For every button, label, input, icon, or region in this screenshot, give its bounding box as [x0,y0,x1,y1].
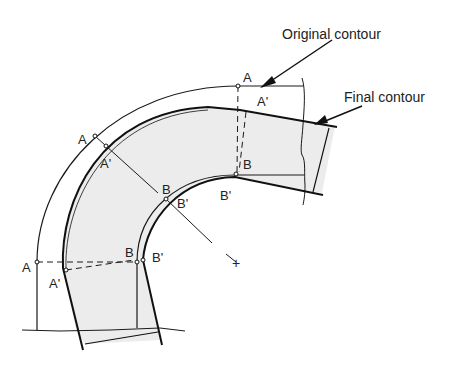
label-a-mid: A [78,132,87,147]
center-marker: + [232,255,240,271]
label-a-prime-top: A' [257,94,268,109]
final-contour-fill [63,107,335,344]
original-contour-label: Original contour [282,26,381,42]
label-a-prime-left: A' [49,276,60,291]
label-a-left: A [22,260,31,275]
final-contour-label: Final contour [344,89,425,105]
label-a-top: A [243,70,252,85]
bend-diagram: + Original contour Final contour A A' B … [0,0,465,366]
label-b-left: B [125,245,134,260]
label-b-top: B [243,157,252,172]
label-b-prime-left: B' [152,250,163,265]
label-b-prime-mid: B' [177,196,188,211]
label-a-prime-mid: A' [100,156,111,171]
label-b-mid: B [162,182,171,197]
label-b-prime-top: B' [220,188,231,203]
